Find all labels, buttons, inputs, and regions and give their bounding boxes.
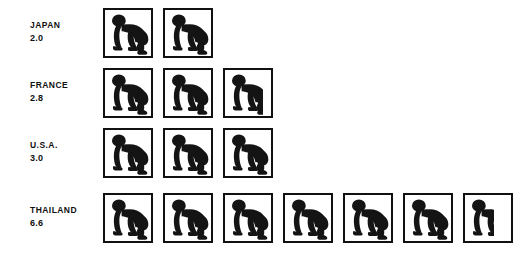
crawling-baby-icon [346,196,392,242]
value-label: 6.6 [30,219,100,231]
crawling-baby-icon [106,131,152,177]
pictogram-icon-box [103,193,153,243]
pictogram-row: THAILAND6.6 [0,189,524,247]
crawling-baby-icon [166,71,212,117]
pictogram-icon-box [343,193,393,243]
pictogram-icon-box [403,193,453,243]
category-label: THAILAND [30,205,100,216]
pictogram-icon-box-partial [223,68,273,118]
pictogram-row: U.S.A.3.0 [0,124,524,182]
crawling-baby-icon [106,11,152,57]
icon-strip [103,124,283,182]
pictogram-icon-box [223,128,273,178]
crawling-baby-icon [166,131,212,177]
icon-strip [103,189,523,247]
pictogram-icon-box [163,68,213,118]
pictogram-icon-box [223,193,273,243]
value-label: 2.8 [30,94,100,106]
pictogram-icon-box [163,193,213,243]
value-label: 2.0 [30,34,100,46]
crawling-baby-icon [466,196,494,242]
pictogram-icon-box [103,128,153,178]
row-label-france: FRANCE2.8 [30,80,100,105]
crawling-baby-icon [106,196,152,242]
crawling-baby-icon [286,196,332,242]
category-label: U.S.A. [30,140,100,151]
crawling-baby-icon [226,131,272,177]
pictogram-icon-box [103,68,153,118]
crawling-baby-icon [106,71,152,117]
crawling-baby-icon [406,196,452,242]
value-label: 3.0 [30,154,100,166]
pictogram-row: JAPAN2.0 [0,4,524,62]
crawling-baby-icon [226,71,263,117]
row-label-usa: U.S.A.3.0 [30,140,100,165]
icon-strip [103,4,223,62]
pictogram-icon-box [283,193,333,243]
pictogram-row: FRANCE2.8 [0,64,524,122]
crawling-baby-icon [166,11,212,57]
row-label-japan: JAPAN2.0 [30,20,100,45]
pictogram-icon-box [103,8,153,58]
category-label: JAPAN [30,20,100,31]
pictogram-icon-box-partial [463,193,513,243]
crawling-baby-icon [226,196,272,242]
icon-strip [103,64,283,122]
crawling-baby-icon [166,196,212,242]
category-label: FRANCE [30,80,100,91]
pictogram-icon-box [163,8,213,58]
pictogram-chart: JAPAN2.0FRANCE2.8U.S.A.3.0THAILAND6.6 [0,0,524,260]
row-label-thailand: THAILAND6.6 [30,205,100,230]
pictogram-icon-box [163,128,213,178]
